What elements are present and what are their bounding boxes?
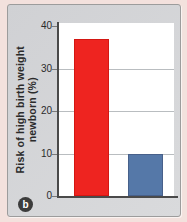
- y-tick-mark: [52, 111, 57, 112]
- y-axis-line: [57, 22, 59, 197]
- subfigure-badge-label: b: [22, 199, 28, 209]
- chart-panel: Risk of high birth weight newborn (%) 01…: [7, 4, 181, 217]
- y-tick-mark: [52, 154, 57, 155]
- y-tick-label: 20: [22, 105, 52, 116]
- y-tick-label: 40: [22, 20, 52, 31]
- bar: [128, 154, 163, 197]
- bar: [74, 39, 109, 196]
- y-tick-mark: [52, 196, 57, 197]
- y-tick-mark: [52, 69, 57, 70]
- y-tick-mark: [52, 26, 57, 27]
- subfigure-badge: b: [18, 197, 33, 212]
- x-axis-line: [57, 196, 178, 198]
- y-tick-label: 10: [22, 148, 52, 159]
- y-tick-label: 30: [22, 63, 52, 74]
- plot-area: [58, 23, 174, 196]
